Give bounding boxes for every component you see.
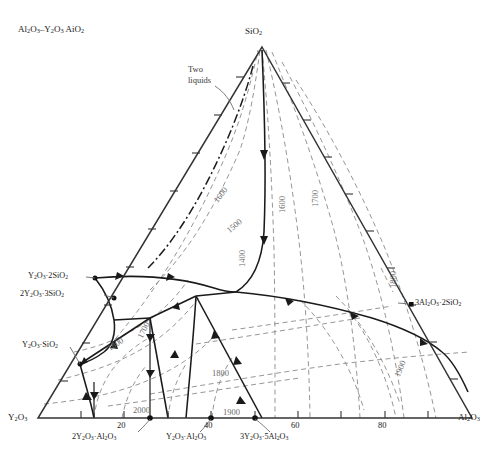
isotherm-label-1800-9: 1800 <box>212 369 229 378</box>
compound-label-y2o3-2sio2: Y2O3·2SiO2 <box>28 272 68 281</box>
compound-label-2y2o3-al2o3: 2Y2O3·Al2O3 <box>72 433 116 442</box>
compound-label-y2o3-sio2: Y2O3·SiO2 <box>22 341 58 350</box>
page-title: Al2O3–Y2O3 AiO2 <box>18 25 84 35</box>
annotation-two-liquids: Two liquids <box>188 64 211 85</box>
axis-tick-20: 20 <box>117 421 126 430</box>
isotherm-label-1700-4: 1700 <box>311 190 320 207</box>
vertex-label-sio2: SiO2 <box>245 27 262 37</box>
isotherm-label-1600-3: 1600 <box>278 196 287 213</box>
axis-tick-80: 80 <box>378 421 387 430</box>
isotherm-label-1800-5: 1800 <box>389 271 398 288</box>
compound-markers <box>78 276 414 421</box>
axis-tick-60: 60 <box>291 421 300 430</box>
two-liquids-line1: Two <box>188 64 211 75</box>
compound-label-y2o3-al2o3: Y2O3·Al2O3 <box>166 433 206 442</box>
ternary-diagram-svg <box>0 0 502 468</box>
compound-label-2y2o3-3sio2: 2Y2O3·3SiO2 <box>20 290 64 299</box>
two-liquids-curve <box>148 66 253 268</box>
isotherm-label-2000-10: 2000 <box>133 406 150 415</box>
isotherm-label-1900-11: 1900 <box>223 408 240 417</box>
compound-label-3y2o3-5al2o3: 3Y2O3·5Al2O3 <box>240 433 288 442</box>
phase-diagram-figure: Al2O3–Y2O3 AiO2 SiO2 Y2O3 Al2O3 Two liqu… <box>0 0 502 468</box>
vertex-label-y2o3: Y2O3 <box>8 413 27 423</box>
liquidus-boundaries <box>80 50 468 418</box>
vertex-label-al2o3: Al2O3 <box>458 413 480 423</box>
two-liquids-line2: liquids <box>188 75 211 86</box>
compound-label-3al2o3-2sio2: 3Al2O3·2SiO2 <box>415 299 461 308</box>
isotherm-label-1400-2: 1400 <box>238 250 247 267</box>
axis-tick-40: 40 <box>204 421 213 430</box>
